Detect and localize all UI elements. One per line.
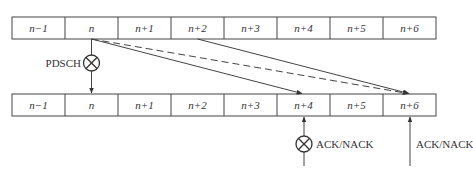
subframe-timing-diagram: n−1 n n+1 n+2 n+3 n+4 n+5 n+6 n−1 n n+1 … — [0, 0, 473, 178]
circle-x-icon — [84, 55, 100, 71]
bottom-cell-n-plus-6: n+6 — [400, 99, 419, 111]
ack-nack-link-n-plus-6: ACK/NACK — [410, 117, 473, 166]
bottom-cell-n: n — [89, 99, 95, 111]
bottom-cell-n-plus-2: n+2 — [188, 99, 207, 111]
bottom-cell-n-plus-3: n+3 — [241, 99, 260, 111]
bottom-cell-n-plus-1: n+1 — [135, 99, 153, 111]
ack-nack-link-n-plus-4: ACK/NACK — [296, 117, 374, 166]
bottom-cell-n-plus-4: n+4 — [294, 99, 313, 111]
top-cell-n-plus-1: n+1 — [135, 22, 153, 34]
top-subframe-row: n−1 n n+1 n+2 n+3 n+4 n+5 n+6 — [12, 17, 436, 39]
top-cell-n-plus-6: n+6 — [400, 22, 419, 34]
top-cell-n-plus-2: n+2 — [188, 22, 207, 34]
bottom-cell-n-minus-1: n−1 — [29, 99, 47, 111]
top-cell-n: n — [89, 22, 95, 34]
arrow-n-to-n-plus-6-dashed — [92, 39, 409, 94]
arrow-n-to-n-plus-4 — [92, 39, 303, 94]
pdsch-label: PDSCH — [46, 57, 82, 69]
top-cell-n-minus-1: n−1 — [29, 22, 47, 34]
ack-nack-label-2: ACK/NACK — [416, 138, 473, 150]
arrow-n-plus-2-to-n-plus-6 — [198, 39, 410, 94]
ack-nack-label-1: ACK/NACK — [316, 138, 374, 150]
circle-x-icon — [296, 136, 312, 152]
top-cell-n-plus-5: n+5 — [347, 22, 366, 34]
bottom-subframe-row: n−1 n n+1 n+2 n+3 n+4 n+5 n+6 — [12, 94, 436, 116]
top-cell-n-plus-4: n+4 — [294, 22, 313, 34]
bottom-cell-n-plus-5: n+5 — [347, 99, 366, 111]
top-cell-n-plus-3: n+3 — [241, 22, 260, 34]
pdsch-link: PDSCH — [46, 39, 100, 93]
